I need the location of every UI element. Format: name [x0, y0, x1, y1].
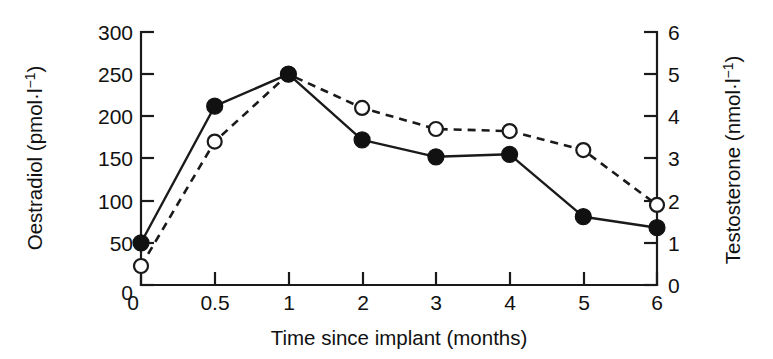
right-axis: 6 5 4 3 2 1 0 Testosterone (nmol·l−1) — [644, 21, 744, 297]
right-ticklabel-5: 5 — [668, 63, 680, 86]
oestradiol-point-2 — [354, 132, 370, 148]
svg-text:Testosterone (nmol·l−1): Testosterone (nmol·l−1) — [720, 56, 744, 265]
oestradiol-point-0 — [133, 235, 149, 251]
right-axis-title-superscript: −1 — [720, 62, 736, 78]
right-ticklabel-1: 1 — [668, 232, 680, 255]
x-ticklabel-5: 5 — [578, 291, 590, 314]
testosterone-point-3 — [429, 122, 443, 136]
oestradiol-point-6 — [649, 220, 665, 236]
oestradiol-point-5 — [575, 209, 591, 225]
x-axis: 0 0.5 1 2 3 4 5 6 Time since implant (mo… — [127, 272, 663, 349]
x-ticklabel-3: 3 — [430, 291, 442, 314]
testosterone-point-2 — [355, 101, 369, 115]
x-axis-title: Time since implant (months) — [271, 326, 528, 349]
x-ticklabel-2: 2 — [357, 291, 369, 314]
x-ticklabel-4: 4 — [504, 291, 516, 314]
line-chart-canvas: 300 250 200 150 100 50 0 Oestradiol (pmo… — [0, 0, 773, 359]
oestradiol-point-3 — [428, 149, 444, 165]
right-axis-title-tail: ) — [721, 56, 744, 63]
x-ticklabel-0.5: 0.5 — [200, 291, 229, 314]
series-oestradiol — [133, 66, 665, 251]
right-ticklabel-4: 4 — [668, 105, 680, 128]
left-ticklabel-100: 100 — [98, 190, 133, 213]
left-ticklabel-50: 50 — [110, 232, 133, 255]
left-ticklabel-150: 150 — [98, 147, 133, 170]
left-ticklabel-300: 300 — [98, 21, 133, 44]
x-ticklabel-1: 1 — [283, 291, 295, 314]
right-ticklabel-3: 3 — [668, 147, 680, 170]
oestradiol-point-1 — [280, 66, 296, 82]
chart-figure: 300 250 200 150 100 50 0 Oestradiol (pmo… — [0, 0, 773, 359]
right-ticklabel-0: 0 — [668, 274, 680, 297]
right-axis-title-main: Testosterone (nmol·l — [721, 79, 744, 265]
testosterone-point-6 — [650, 198, 664, 212]
oestradiol-markers — [133, 66, 665, 251]
testosterone-point-5 — [576, 143, 590, 157]
x-ticklabel-6: 6 — [651, 291, 663, 314]
left-axis-title: Oestradiol (pmol·l−1) — [22, 66, 46, 251]
right-axis-title: Testosterone (nmol·l−1) — [720, 56, 744, 265]
testosterone-point-4 — [503, 124, 517, 138]
left-axis-title-superscript: −1 — [22, 72, 38, 88]
x-ticklabel-0: 0 — [127, 291, 139, 314]
oestradiol-point-0.5 — [207, 98, 223, 114]
left-axis-title-main: Oestradiol (pmol·l — [23, 89, 46, 251]
testosterone-point-0 — [134, 259, 148, 273]
testosterone-point-0.5 — [208, 135, 222, 149]
left-axis-title-tail: ) — [23, 66, 46, 73]
left-axis: 300 250 200 150 100 50 0 Oestradiol (pmo… — [22, 21, 154, 304]
left-ticklabel-250: 250 — [98, 63, 133, 86]
svg-text:Oestradiol (pmol·l−1): Oestradiol (pmol·l−1) — [22, 66, 46, 251]
oestradiol-point-4 — [502, 146, 518, 162]
right-ticklabel-6: 6 — [668, 21, 680, 44]
left-ticklabel-200: 200 — [98, 105, 133, 128]
right-ticklabel-2: 2 — [668, 190, 680, 213]
